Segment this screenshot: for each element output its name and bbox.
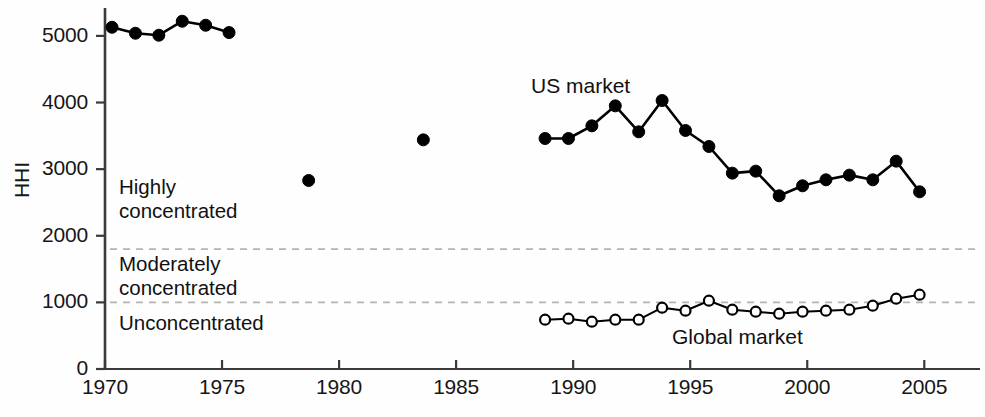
x-tick-label-1970: 1970 [60,375,150,399]
data-point [868,301,878,311]
threshold-gridlines [110,249,975,302]
data-point [798,307,808,317]
data-point [153,29,165,41]
y-axis-title: HHI [10,145,34,215]
series-line-segment [545,101,920,196]
y-tick-label-5000: 5000 [0,23,88,47]
data-point [703,140,715,152]
data-point [750,165,762,177]
data-point [680,125,692,137]
data-point [200,19,212,31]
data-point [726,167,738,179]
series-label-us-market: US market [531,74,630,98]
data-point [586,120,598,132]
data-point [727,305,737,315]
y-tick-label-4000: 4000 [0,90,88,114]
y-tick-label-2000: 2000 [0,223,88,247]
data-point [704,296,714,306]
series-global-market [540,290,925,327]
data-point [867,174,879,186]
data-point [773,190,785,202]
data-point [609,100,621,112]
data-point [303,174,315,186]
x-tick-label-2005: 2005 [879,375,969,399]
data-point [634,315,644,325]
x-tick-label-1975: 1975 [177,375,267,399]
data-point [106,21,118,33]
data-point [539,132,551,144]
x-tick-label-2000: 2000 [762,375,852,399]
data-point [657,303,667,313]
data-point [562,132,574,144]
data-point [797,180,809,192]
x-tick-label-1990: 1990 [528,375,618,399]
y-tick-label-1000: 1000 [0,289,88,313]
data-point [540,315,550,325]
data-point [820,174,832,186]
data-point [843,169,855,181]
data-point [844,305,854,315]
data-point [914,186,926,198]
data-point [915,290,925,300]
data-point [821,306,831,316]
x-tick-label-1980: 1980 [294,375,384,399]
data-point [633,126,645,138]
zone-label-moderately-line1: Moderately [119,252,220,276]
data-point [223,27,235,39]
x-tick-label-1995: 1995 [645,375,735,399]
x-tick-label-1985: 1985 [411,375,501,399]
data-point [891,294,901,304]
data-point [774,309,784,319]
data-point [129,27,141,39]
data-point [610,315,620,325]
zone-label-highly-line2: concentrated [119,199,238,223]
data-point [176,15,188,27]
data-point [751,307,761,317]
series-label-global-market: Global market [672,325,803,349]
data-point [890,155,902,167]
zone-label-moderately-line2: concentrated [119,276,238,300]
data-point [656,95,668,107]
zone-label-unconcentrated: Unconcentrated [119,311,264,335]
data-point [587,317,597,327]
data-point [563,314,573,324]
data-point [681,306,691,316]
data-point [417,134,429,146]
hhi-chart: 010002000300040005000 197019751980198519… [0,0,985,417]
zone-label-highly-line1: Highly [119,175,176,199]
series-us-market [106,15,926,202]
